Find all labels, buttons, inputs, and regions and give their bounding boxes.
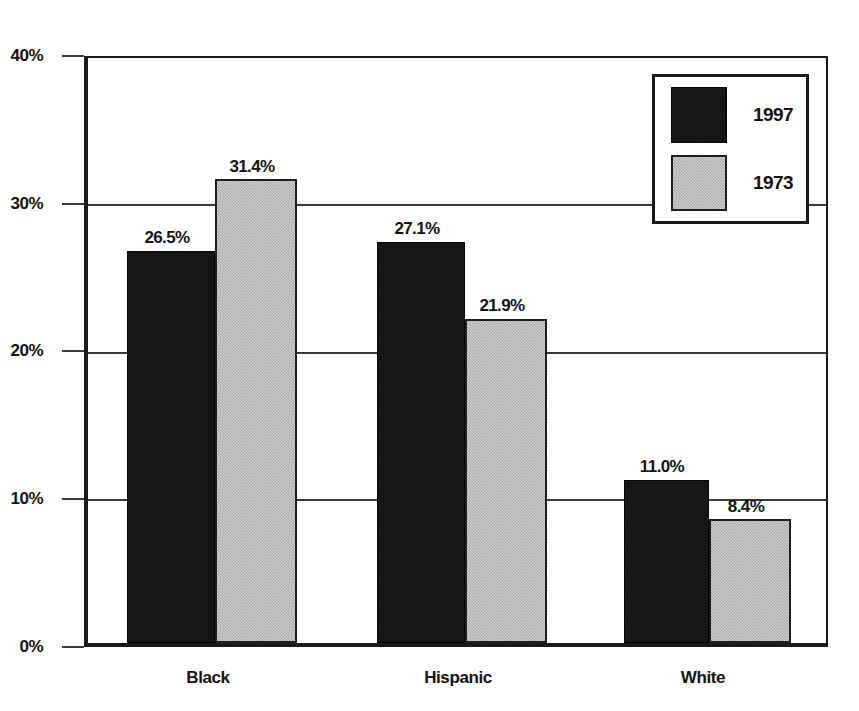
bar-hispanic-1973 [465, 319, 547, 643]
bar-white-1973 [709, 519, 791, 643]
bar-black-1973 [215, 179, 297, 643]
value-label-hispanic-1973: 21.9% [479, 296, 524, 316]
y-tick-label-40: 40% [10, 46, 43, 66]
bar-white-1997 [624, 480, 709, 643]
y-tick-dash-20 [62, 350, 84, 352]
legend-label-1997: 1997 [753, 104, 793, 126]
legend-entry-1997: 1997 [671, 87, 799, 143]
value-label-white-1997: 11.0% [640, 457, 684, 477]
y-tick-dash-10 [62, 498, 84, 500]
y-tick-label-0: 0% [19, 637, 43, 657]
y-tick-dash-30 [62, 203, 84, 205]
legend-entry-1973: 1973 [671, 155, 799, 211]
bar-chart: 40% 30% 20% 10% 0% 26.5% 31.4% 27.1% 21.… [0, 0, 859, 711]
y-tick-dash-0 [62, 646, 84, 648]
y-tick-dash-40 [62, 55, 84, 57]
value-label-hispanic-1997: 27.1% [394, 219, 439, 239]
x-category-label-hispanic: Hispanic [424, 668, 492, 688]
top-cropped-caption [120, 0, 760, 3]
y-tick-label-10: 10% [10, 489, 43, 509]
y-tick-label-30: 30% [10, 194, 43, 214]
value-label-black-1973: 31.4% [229, 157, 274, 177]
legend-swatch-1997-icon [671, 87, 727, 143]
x-category-label-white: White [681, 668, 725, 688]
bar-black-1997 [127, 251, 215, 643]
y-axis: 40% 30% 20% 10% 0% [0, 0, 84, 711]
legend-label-1973: 1973 [753, 172, 793, 194]
value-label-white-1973: 8.4% [728, 497, 764, 517]
value-label-black-1997: 26.5% [144, 228, 189, 248]
legend-swatch-1973-icon [671, 155, 727, 211]
y-tick-label-20: 20% [10, 341, 43, 361]
bar-hispanic-1997 [377, 242, 465, 643]
x-category-label-black: Black [186, 668, 229, 688]
legend: 1997 1973 [652, 74, 809, 224]
